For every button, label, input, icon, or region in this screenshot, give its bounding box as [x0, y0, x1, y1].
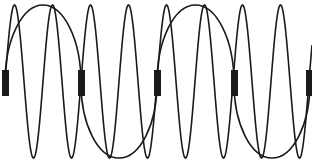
large-arc-1 [5, 5, 81, 83]
anchor-blocks [2, 70, 312, 96]
anchor-block-1 [2, 70, 9, 96]
large-arc-2 [81, 83, 157, 158]
anchor-block-5 [306, 70, 312, 96]
anchor-block-3 [154, 70, 161, 96]
anchor-block-2 [78, 70, 85, 96]
anchor-block-4 [231, 70, 238, 96]
helix-coil-diagram [0, 0, 312, 163]
coil-drawing [0, 0, 312, 163]
large-arc-4 [234, 83, 310, 158]
